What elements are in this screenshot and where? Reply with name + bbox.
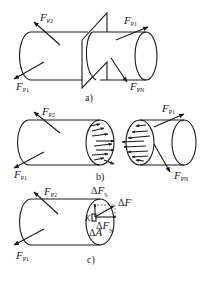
method-of-sections-diagram: FP2 FP1 FP1 FPN a) — [0, 0, 214, 281]
label-fp1-left: FP1 — [15, 80, 29, 93]
label-fp2: FP2 — [41, 105, 55, 118]
force-fp1-left-arrow — [14, 152, 44, 168]
label-fpn: FPN — [173, 169, 189, 182]
label-da: ΔA — [89, 226, 102, 238]
cutting-plane — [82, 13, 107, 88]
cylinder-right-body — [86, 32, 146, 80]
force-fp1-right-arrow — [116, 27, 148, 40]
label-fp2: FP2 — [43, 185, 57, 198]
label-fp1-right: FP1 — [161, 102, 175, 115]
label-dfs: ΔFS — [91, 184, 108, 198]
label-df: ΔF — [118, 196, 131, 208]
label-fp1-right: FP1 — [123, 14, 137, 27]
label-fpn: FPN — [129, 80, 145, 93]
part-b: FP2 FP1 FP1 FPN b) — [13, 102, 196, 183]
cylinder-left-body — [18, 120, 101, 165]
section-face-right — [126, 120, 154, 165]
cylinder-right-end — [172, 120, 196, 165]
force-fp1-left-arrow — [14, 229, 44, 245]
label-fp1-left: FP1 — [13, 168, 27, 181]
force-fp2-arrow — [34, 22, 60, 45]
force-df-arrow — [95, 206, 114, 217]
part-a: FP2 FP1 FP1 FPN a) — [14, 11, 157, 104]
caption-b: b) — [96, 171, 104, 183]
caption-c: c) — [87, 254, 95, 266]
label-fp2: FP2 — [39, 11, 53, 24]
part-c: FP2 FP1 ΔFS ΔF ΔFN ΔA K c) — [14, 184, 131, 266]
force-fpn-arrow — [111, 58, 127, 82]
caption-a: a) — [85, 92, 93, 104]
label-k: K — [84, 214, 91, 223]
label-fp1-left: FP1 — [15, 249, 29, 262]
cylinder-right-end — [135, 32, 157, 80]
force-fp1-left-arrow — [14, 62, 44, 79]
force-fpn-arrow — [154, 144, 170, 172]
